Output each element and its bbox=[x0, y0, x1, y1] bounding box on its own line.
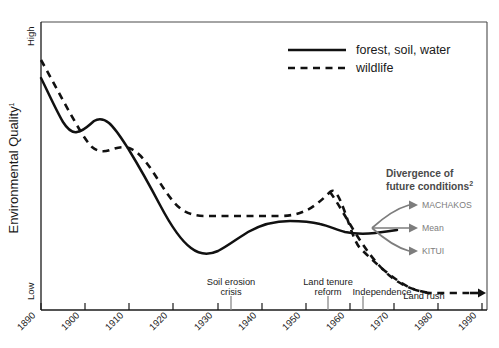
annotation-ticks bbox=[231, 296, 363, 310]
environmental-quality-chart: 1890 1900 1910 1920 1930 1940 1950 1960 … bbox=[0, 0, 499, 348]
x-tick-labels: 1890 1900 1910 1920 1930 1940 1950 1960 … bbox=[15, 310, 479, 333]
y-axis-title: Environmental Quality1 bbox=[6, 102, 21, 233]
divergence-title: Divergence of future conditions2 bbox=[386, 168, 473, 192]
y-axis-title-text: Environmental Quality bbox=[6, 106, 21, 234]
x-tick-label-3: 1920 bbox=[147, 310, 170, 333]
x-tick-label-4: 1930 bbox=[192, 310, 215, 333]
fan-branch-machakos bbox=[372, 205, 409, 228]
x-axis-ticks bbox=[41, 303, 482, 310]
divergence-title-line-1: Divergence of bbox=[386, 168, 454, 179]
x-tick-label-7: 1960 bbox=[324, 310, 347, 333]
y-axis-title-superscript: 1 bbox=[8, 102, 15, 106]
wildlife-arrowhead bbox=[478, 289, 486, 298]
x-tick-label-2: 1910 bbox=[103, 310, 126, 333]
x-tick-label-0: 1890 bbox=[15, 310, 38, 333]
x-tick-label-5: 1940 bbox=[236, 310, 259, 333]
divergence-title-superscript: 2 bbox=[469, 180, 473, 187]
fan-label-machakos: MACHAKOS bbox=[422, 200, 472, 210]
fan-label-mean: Mean bbox=[422, 223, 444, 233]
annotation-land-tenure-reform-line-2: reform bbox=[315, 287, 342, 297]
fan-arrowhead-kitui bbox=[409, 247, 418, 256]
divergence-title-line-2-text: future conditions bbox=[386, 181, 470, 192]
plot-frame bbox=[41, 22, 487, 310]
annotation-land-tenure-reform-line-1: Land tenure bbox=[303, 277, 353, 287]
event-annotations: Soil erosion crisis Land tenure reform I… bbox=[207, 277, 445, 301]
annotation-soil-erosion-crisis-line-1: Soil erosion bbox=[207, 277, 256, 287]
series-forest-soil-water bbox=[41, 78, 397, 254]
chart-figure: 1890 1900 1910 1920 1930 1940 1950 1960 … bbox=[0, 0, 499, 348]
x-tick-label-9: 1980 bbox=[412, 310, 435, 333]
fan-label-kitui: KITUI bbox=[422, 246, 444, 256]
annotation-land-rush: Land rush bbox=[403, 291, 444, 301]
x-tick-label-10: 1990 bbox=[456, 310, 479, 333]
divergence-fan: MACHAKOS Mean KITUI bbox=[372, 200, 472, 256]
y-axis-low-label: Low bbox=[25, 282, 36, 300]
divergence-title-line-2: future conditions2 bbox=[386, 180, 473, 192]
legend-label-wildlife: wildlife bbox=[355, 61, 394, 75]
chart-legend: forest, soil, water wildlife bbox=[288, 43, 450, 75]
y-axis-high-label: High bbox=[25, 26, 36, 46]
fan-arrowhead-mean bbox=[409, 224, 418, 233]
legend-label-forest-soil-water: forest, soil, water bbox=[356, 43, 450, 57]
x-tick-label-1: 1900 bbox=[59, 310, 82, 333]
fan-arrowhead-machakos bbox=[409, 201, 418, 210]
x-tick-label-8: 1970 bbox=[368, 310, 391, 333]
annotation-soil-erosion-crisis-line-2: crisis bbox=[220, 287, 242, 297]
svg-text:Environmental Quality1: Environmental Quality1 bbox=[6, 102, 21, 233]
x-tick-label-6: 1950 bbox=[280, 310, 303, 333]
